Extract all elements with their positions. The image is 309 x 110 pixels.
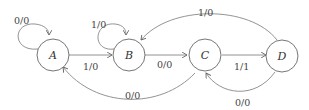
edge-label-C-A: 0/0 xyxy=(125,90,140,101)
state-A: A xyxy=(37,39,69,71)
edge-label-A-B: 1/0 xyxy=(83,61,98,72)
edge-D-C xyxy=(206,72,275,91)
state-C: C xyxy=(189,39,221,71)
edge-label-C-D: 1/1 xyxy=(234,61,249,72)
state-B: B xyxy=(113,39,145,71)
state-C-label: C xyxy=(201,49,210,62)
state-A-label: A xyxy=(48,49,57,62)
edge-label-B-B: 1/0 xyxy=(91,19,106,30)
edge-label-D-B: 1/0 xyxy=(198,7,213,18)
edge-label-A-A: 0/0 xyxy=(14,15,29,26)
state-diagram: A B C D 0/0 1/0 1/0 0/0 1/1 0/0 1/0 0/0 xyxy=(0,0,309,110)
state-D-label: D xyxy=(277,50,287,63)
state-B-label: B xyxy=(124,49,133,62)
edge-label-B-C: 0/0 xyxy=(157,59,172,70)
edge-label-D-C: 0/0 xyxy=(235,97,250,108)
state-D: D xyxy=(266,40,298,72)
